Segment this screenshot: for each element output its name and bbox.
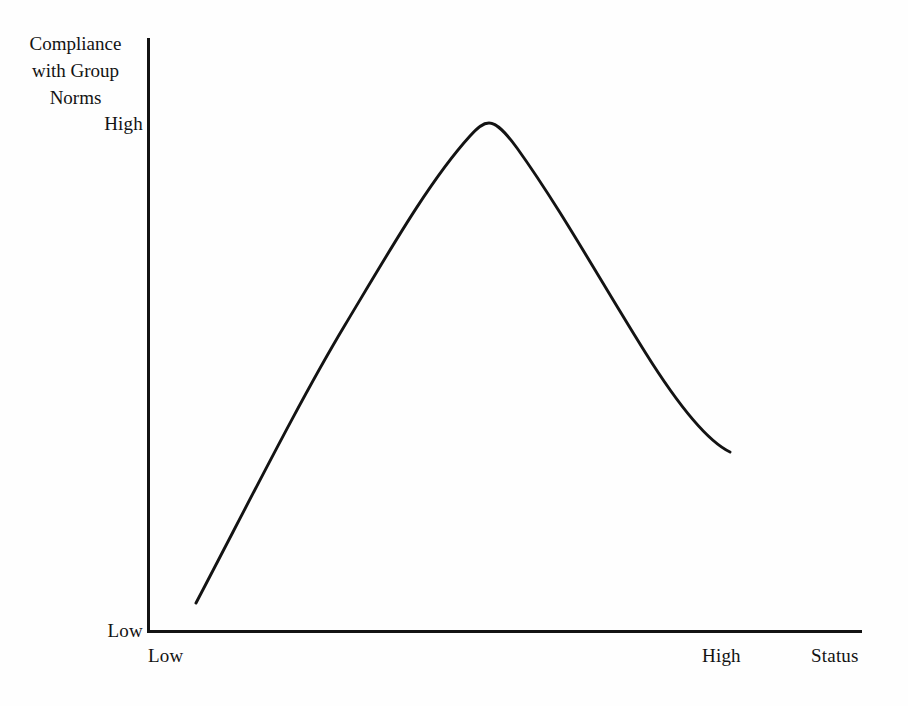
y-axis-title: Compliance with Group Norms <box>8 30 143 111</box>
x-axis-title: Status <box>811 645 859 667</box>
compliance-curve <box>196 123 730 603</box>
y-axis-title-line-1: Compliance <box>8 30 143 57</box>
y-axis-tick-high: High <box>62 113 143 135</box>
y-axis-title-line-3: Norms <box>8 84 143 111</box>
x-axis-tick-low: Low <box>148 645 183 667</box>
y-axis-tick-low: Low <box>62 620 143 642</box>
y-axis-title-line-2: with Group <box>8 57 143 84</box>
figure-canvas: Compliance with Group Norms High Low Low… <box>0 0 908 706</box>
x-axis-tick-high: High <box>702 645 741 667</box>
